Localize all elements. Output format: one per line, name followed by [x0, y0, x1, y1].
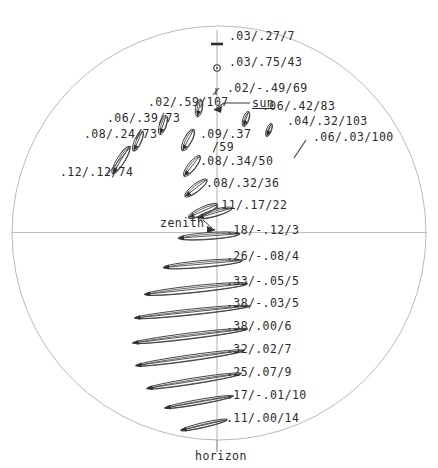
data-point-label: .03/.75/43: [229, 56, 302, 68]
data-point-label: .09/.37: [200, 128, 251, 140]
polarization-ellipse: [241, 110, 252, 127]
circle-marker-dot-icon: [216, 67, 218, 69]
stroke-marker-icon: [294, 140, 306, 158]
polarization-ellipse: [180, 417, 228, 433]
data-point-label: .02/.59/107: [148, 96, 229, 108]
data-point-label: .38/-.03/5: [226, 297, 299, 309]
figure-canvas: [0, 0, 438, 468]
polarization-ellipse: [164, 393, 234, 410]
polarization-ellipse: [264, 123, 273, 138]
horizon-label: horizon: [195, 449, 247, 463]
data-point-label: .32/.02/7: [226, 343, 292, 355]
data-point-label: .03/.27/7: [229, 30, 295, 42]
data-point-label: .26/-.08/4: [226, 250, 299, 262]
sky-polarization-figure: .03/.27/7.03/.75/43.02/-.49/69.02/.59/10…: [0, 0, 438, 468]
data-point-label: .08/.24/73: [84, 128, 157, 140]
sun-label: sun: [252, 96, 274, 110]
data-point-label: .38/.00/6: [226, 320, 292, 332]
data-point-label: .11/.17/22: [214, 199, 287, 211]
data-point-label: .06/.03/100: [313, 131, 394, 143]
zenith-pointer: [203, 220, 216, 233]
polarization-ellipse-layer: [109, 99, 274, 433]
data-point-label: .08/.34/50: [200, 155, 273, 167]
data-point-label: .02/-.49/69: [227, 82, 308, 94]
data-point-label: .25/.07/9: [226, 366, 292, 378]
tick-marker-icon: [213, 88, 219, 95]
polarization-ellipse: [179, 128, 197, 153]
zenith-label: zenith: [160, 216, 205, 230]
data-point-label: .17/-.01/10: [226, 389, 307, 401]
data-point-label: .11/.00/14: [226, 412, 299, 424]
data-point-label: .33/-.05/5: [226, 275, 299, 287]
data-point-label: .06/.39/73: [107, 112, 180, 124]
data-point-label: /59: [212, 141, 234, 153]
data-point-label: .04/.32/103: [287, 115, 368, 127]
data-point-label: .12/.12/74: [60, 166, 133, 178]
data-point-label: .08/.32/36: [206, 177, 279, 189]
data-point-label: .18/-.12/3: [226, 224, 299, 236]
